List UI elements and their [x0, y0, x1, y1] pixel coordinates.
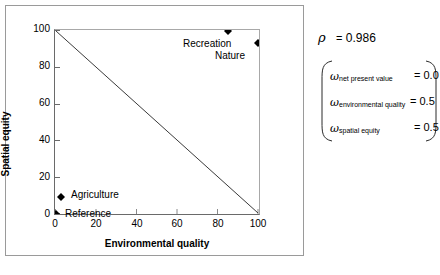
- point-label-nature: Nature: [215, 50, 245, 61]
- weight-row-spatial-equity: ωspatial equity = 0.5: [330, 122, 380, 134]
- weight-value-eq: = 0.5: [410, 95, 435, 107]
- omega-symbol: ω: [330, 122, 339, 135]
- x-tick-label: 80: [203, 219, 233, 229]
- x-axis-title: Environmental quality: [54, 238, 260, 249]
- x-axis-tick-labels: 0 20 40 60 80 100: [54, 219, 260, 233]
- x-tick-label: 20: [81, 219, 111, 229]
- point-label-reference: Reference: [65, 208, 111, 219]
- marker-reference[interactable]: [55, 210, 60, 214]
- x-tick-label: 40: [122, 219, 152, 229]
- y-tick-label: 80: [24, 61, 50, 71]
- y-tick-label: 0: [24, 209, 50, 219]
- weights-brace-group: ωnet present value = 0.0 ωenvironmental …: [318, 58, 440, 144]
- y-axis-tick-labels: 100 80 60 40 20 0: [20, 29, 50, 215]
- x-tick-label: 100: [243, 219, 273, 229]
- weight-row-environmental-quality: ωenvironmental quality = 0.5: [330, 96, 405, 108]
- marker-agriculture[interactable]: [57, 193, 65, 201]
- weight-value-npv: = 0.0: [414, 69, 439, 81]
- y-tick-label: 40: [24, 135, 50, 145]
- figure-root: Spatial equity 100 80 60 40 20 0: [0, 0, 440, 275]
- omega-subscript: spatial equity: [339, 127, 380, 134]
- annotation-panel: ρ = 0.986 ωnet present value = 0.0 ωenvi…: [318, 30, 438, 144]
- rho-symbol: ρ: [318, 30, 326, 45]
- y-tick-label: 100: [24, 24, 50, 34]
- rho-annotation: ρ = 0.986: [318, 30, 438, 48]
- x-tick-label: 60: [162, 219, 192, 229]
- y-tick-label: 60: [24, 98, 50, 108]
- omega-symbol: ω: [330, 96, 339, 109]
- marker-recreation[interactable]: [224, 30, 232, 35]
- weight-value-se: = 0.5: [414, 121, 439, 133]
- x-tick-label: 0: [40, 219, 70, 229]
- weight-row-net-present-value: ωnet present value = 0.0: [330, 70, 393, 82]
- omega-subscript: environmental quality: [339, 101, 405, 108]
- plot-area: Recreation Nature Agriculture Reference: [54, 29, 260, 215]
- rho-value: 0.986: [346, 31, 376, 45]
- marker-nature[interactable]: [254, 39, 259, 47]
- y-axis-title: Spatial equity: [0, 84, 11, 204]
- y-tick-label: 20: [24, 172, 50, 182]
- point-label-agriculture: Agriculture: [71, 189, 119, 200]
- y-tick-marks: [55, 31, 60, 214]
- chart-frame: Spatial equity 100 80 60 40 20 0: [5, 5, 304, 256]
- point-label-recreation: Recreation: [183, 38, 231, 49]
- rho-equals-sign: =: [336, 32, 342, 44]
- omega-subscript: net present value: [339, 75, 393, 82]
- omega-symbol: ω: [330, 70, 339, 83]
